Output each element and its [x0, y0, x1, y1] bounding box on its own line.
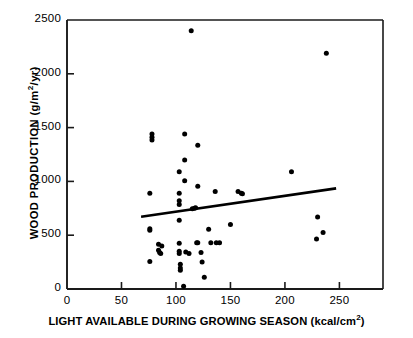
scatter-point [182, 178, 187, 183]
scatter-point [177, 202, 182, 207]
scatter-point [195, 143, 200, 148]
scatter-point [187, 251, 192, 256]
scatter-point [321, 230, 326, 235]
scatter-point [289, 169, 294, 174]
scatter-point [202, 275, 207, 280]
scatter-point [177, 218, 182, 223]
scatter-point [178, 268, 183, 273]
scatter-point [147, 191, 152, 196]
scatter-point [177, 191, 182, 196]
scatter-point [193, 205, 198, 210]
scatter-point [177, 169, 182, 174]
scatter-point [158, 251, 163, 256]
plot-area [0, 0, 413, 338]
scatter-point [182, 157, 187, 162]
scatter-point [181, 284, 186, 289]
scatter-point [177, 241, 182, 246]
scatter-point [195, 240, 200, 245]
scatter-point [315, 214, 320, 219]
scatter-point [189, 28, 194, 33]
figure-caption-remnant [30, 332, 380, 337]
scatter-point [182, 132, 187, 137]
scatter-chart-figure: WOOD PRODUCTION (g/m2/yr) LIGHT AVAILABL… [0, 0, 413, 338]
scatter-point [228, 222, 233, 227]
scatter-point [159, 243, 164, 248]
scatter-point [208, 240, 213, 245]
scatter-point [314, 236, 319, 241]
scatter-point [213, 189, 218, 194]
scatter-point [147, 226, 152, 231]
scatter-point [200, 260, 205, 265]
scatter-point [206, 227, 211, 232]
scatter-point [199, 250, 204, 255]
scatter-point [195, 184, 200, 189]
scatter-point [149, 137, 154, 142]
scatter-point [240, 191, 245, 196]
scatter-point [147, 259, 152, 264]
scatter-point [324, 51, 329, 56]
scatter-point [177, 251, 182, 256]
scatter-point [217, 240, 222, 245]
